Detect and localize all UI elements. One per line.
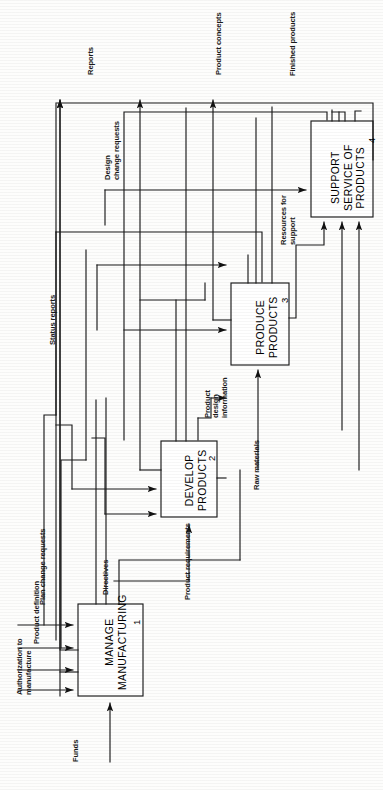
flow-label-funds: Funds — [71, 740, 80, 762]
box-number-1: 1 — [131, 620, 142, 625]
box-number-3: 3 — [279, 298, 290, 303]
box-label-support-service-of-products: SUPPORT SERVICE OF PRODUCTS — [330, 144, 368, 211]
box-line1: PRODUCE — [255, 296, 268, 358]
flow-label-resources-for-support: Resources for support — [280, 195, 297, 245]
flow-label-finished-products: Finished products — [288, 12, 297, 76]
flow-label-line3: information — [221, 377, 229, 418]
box-number-2: 2 — [206, 456, 217, 461]
box-line3: PRODUCTS — [355, 144, 368, 211]
box-line1: SUPPORT — [330, 144, 343, 211]
box-line1: MANAGE — [104, 594, 117, 690]
flow-directives-forward — [119, 560, 240, 604]
flow-label-product-design-information: Product design information — [204, 377, 229, 418]
idef0-diagram-svg — [0, 0, 383, 790]
flow-reports — [60, 100, 78, 650]
bus-produce-top-b — [56, 232, 262, 282]
flow-into-develop-b-elbow — [92, 438, 105, 514]
flow-label-authorization-to-manufacture: Authorization to manufacture — [16, 638, 33, 695]
flow-product-requirements — [114, 525, 189, 581]
flow-label-status-reports: Status reports — [48, 295, 57, 345]
flow-label-line2: change requests — [113, 121, 122, 180]
box-label-manage-manufacturing: MANAGE MANUFACTURING — [104, 594, 129, 690]
flow-label-directives: Directives — [101, 560, 110, 595]
box-number-4: 4 — [366, 138, 377, 143]
flow-into-develop-a-elbow — [56, 425, 72, 489]
flow-label-product-requirements: Product requirements — [183, 523, 192, 600]
flow-label-product-definition: Product definition — [32, 581, 41, 644]
flow-label-raw-materials: Raw materials — [252, 440, 261, 490]
bus-aux-a — [355, 111, 361, 121]
box-line1: DEVELOP — [184, 449, 197, 511]
flow-label-product-concepts: Product concepts — [214, 12, 223, 75]
box-label-produce-products: PRODUCE PRODUCTS — [255, 296, 280, 358]
flow-label-line2: manufacture — [25, 638, 34, 695]
flow-label-reports: Reports — [86, 47, 95, 75]
flow-label-design-change-requests: Design change requests — [104, 121, 121, 180]
box-line2: PRODUCTS — [268, 296, 281, 358]
flow-label-line2: support — [289, 195, 298, 245]
diagram-canvas: MANAGE MANUFACTURING 1 DEVELOP PRODUCTS … — [0, 0, 383, 790]
box-line2: SERVICE OF — [343, 144, 356, 211]
box-line2: MANUFACTURING — [117, 594, 130, 690]
